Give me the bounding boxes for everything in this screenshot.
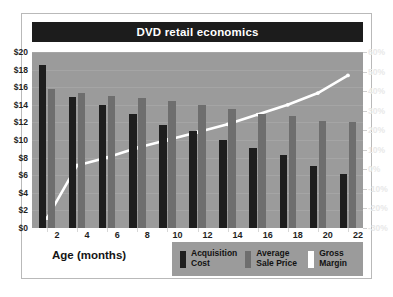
bar-average-sale-price bbox=[319, 121, 327, 228]
y-axis-right-tick: 30% bbox=[368, 106, 385, 116]
legend-label-average-sale-price: Average Sale Price bbox=[256, 249, 297, 268]
bar-acquisition-cost bbox=[310, 166, 318, 228]
y-axis-right-tick: 0% bbox=[368, 164, 380, 174]
bar-average-sale-price bbox=[349, 122, 357, 228]
plot-area: $0$2$4$6$8$10$12$14$16$18$20-30%-20%-10%… bbox=[32, 52, 363, 228]
title-bar: DVD retail economics bbox=[32, 22, 363, 42]
bar-acquisition-cost bbox=[129, 114, 137, 228]
x-axis-tickmark bbox=[258, 228, 259, 232]
x-axis-tick: 4 bbox=[85, 230, 90, 240]
x-axis-tick: 20 bbox=[323, 230, 333, 240]
bar-average-sale-price bbox=[138, 98, 146, 228]
y-axis-left-tick: $20 bbox=[14, 47, 28, 57]
x-axis-tickmark bbox=[167, 228, 168, 232]
bar-acquisition-cost bbox=[340, 174, 348, 228]
x-axis-tickmark bbox=[318, 228, 319, 232]
x-axis-title: Age (months) bbox=[52, 249, 126, 261]
x-axis-tick: 12 bbox=[202, 230, 212, 240]
chart-legend: Acquisition CostAverage Sale PriceGross … bbox=[172, 242, 363, 276]
bar-acquisition-cost bbox=[39, 65, 47, 228]
bar-acquisition-cost bbox=[99, 105, 107, 228]
x-axis-tickmark bbox=[137, 228, 138, 232]
x-axis-tickmark bbox=[77, 228, 78, 232]
y-axis-right-tick: 10% bbox=[368, 145, 385, 155]
bar-average-sale-price bbox=[78, 93, 86, 228]
gridline bbox=[32, 70, 363, 71]
x-axis-tick: 14 bbox=[233, 230, 243, 240]
x-axis-tick: 22 bbox=[353, 230, 363, 240]
bar-average-sale-price bbox=[108, 96, 116, 228]
bar-acquisition-cost bbox=[189, 131, 197, 228]
y-axis-left-tick: $4 bbox=[19, 188, 28, 198]
y-axis-right-tick: -20% bbox=[368, 203, 388, 213]
y-axis-right-tickmark bbox=[363, 208, 367, 209]
x-axis-tickmark bbox=[198, 228, 199, 232]
y-axis-right-tick: -30% bbox=[368, 223, 388, 233]
y-axis-right-tickmark bbox=[363, 189, 367, 190]
y-axis-right-tick: -10% bbox=[368, 184, 388, 194]
y-axis-right-tick: 40% bbox=[368, 86, 385, 96]
y-axis-left-tick: $2 bbox=[19, 205, 28, 215]
y-axis-left-tick: $16 bbox=[14, 82, 28, 92]
x-axis-tickmark bbox=[47, 228, 48, 232]
y-axis-right-tickmark bbox=[363, 52, 367, 53]
y-axis-right-tickmark bbox=[363, 169, 367, 170]
y-axis-right-tick: 20% bbox=[368, 125, 385, 135]
legend-item-acquisition-cost: Acquisition Cost bbox=[172, 249, 237, 268]
y-axis-left-tick: $18 bbox=[14, 65, 28, 75]
page-title: DVD retail economics bbox=[136, 26, 258, 38]
gridline bbox=[32, 52, 363, 53]
x-axis-tick: 2 bbox=[55, 230, 60, 240]
x-axis-tick: 16 bbox=[263, 230, 273, 240]
x-axis-tickmark bbox=[348, 228, 349, 232]
y-axis-right-tick: 60% bbox=[368, 47, 385, 57]
legend-item-gross-margin: Gross Margin bbox=[300, 249, 363, 268]
y-axis-right-tickmark bbox=[363, 72, 367, 73]
y-axis-right-tickmark bbox=[363, 91, 367, 92]
bar-average-sale-price bbox=[168, 101, 176, 228]
x-axis-tickmark bbox=[107, 228, 108, 232]
y-axis-left-tick: $14 bbox=[14, 100, 28, 110]
bar-acquisition-cost bbox=[69, 97, 77, 228]
legend-swatch-acquisition-cost bbox=[180, 251, 186, 268]
y-axis-right-tick: 50% bbox=[368, 67, 385, 77]
bar-average-sale-price bbox=[198, 105, 206, 228]
x-axis-tickmark bbox=[288, 228, 289, 232]
y-axis-right-tickmark bbox=[363, 228, 367, 229]
y-axis-left-tick: $6 bbox=[19, 170, 28, 180]
y-axis-left-tick: $8 bbox=[19, 153, 28, 163]
x-axis-tick: 18 bbox=[293, 230, 303, 240]
bar-average-sale-price bbox=[289, 116, 297, 228]
y-axis-right-tickmark bbox=[363, 130, 367, 131]
y-axis-left-tick: $12 bbox=[14, 117, 28, 127]
legend-swatch-average-sale-price bbox=[245, 251, 251, 268]
legend-label-acquisition-cost: Acquisition Cost bbox=[191, 249, 237, 268]
bar-average-sale-price bbox=[48, 89, 56, 228]
gridline bbox=[32, 87, 363, 88]
bar-acquisition-cost bbox=[159, 125, 167, 228]
bar-average-sale-price bbox=[258, 114, 266, 228]
bar-acquisition-cost bbox=[219, 140, 227, 228]
x-axis-tickmark bbox=[228, 228, 229, 232]
bar-average-sale-price bbox=[228, 109, 236, 228]
y-axis-left-tick: $10 bbox=[14, 135, 28, 145]
chart-frame: DVD retail economics $0$2$4$6$8$10$12$14… bbox=[21, 13, 372, 279]
bar-acquisition-cost bbox=[249, 148, 257, 228]
y-axis-left-tick: $0 bbox=[19, 223, 28, 233]
y-axis-right-tickmark bbox=[363, 111, 367, 112]
bar-acquisition-cost bbox=[280, 155, 288, 228]
legend-label-gross-margin: Gross Margin bbox=[319, 249, 347, 268]
legend-item-average-sale-price: Average Sale Price bbox=[237, 249, 300, 268]
y-axis-right-tickmark bbox=[363, 150, 367, 151]
legend-swatch-gross-margin bbox=[308, 251, 314, 268]
x-axis-tick: 6 bbox=[115, 230, 120, 240]
x-axis-tick: 10 bbox=[172, 230, 182, 240]
x-axis-tick: 8 bbox=[145, 230, 150, 240]
